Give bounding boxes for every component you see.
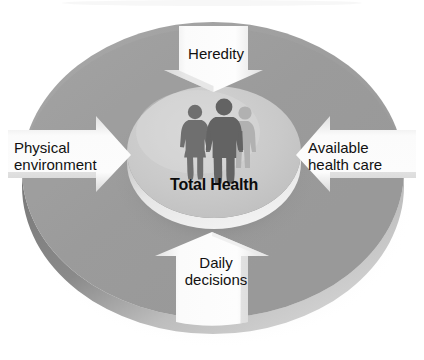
scan-artifact <box>62 0 362 6</box>
label-daily-line1: Daily <box>199 254 232 271</box>
label-daily-decisions: Dailydecisions <box>163 254 269 288</box>
label-physical-line2: environment <box>14 156 97 173</box>
label-total-health: Total Health <box>132 176 296 194</box>
label-physical-line1: Physical <box>14 139 70 156</box>
label-available-line1: Available <box>308 139 369 156</box>
label-daily-line2: decisions <box>185 271 248 288</box>
label-physical-environment: Physicalenvironment <box>14 139 126 173</box>
diagram-canvas: Heredity Physicalenvironment Availablehe… <box>0 0 424 360</box>
label-available-line2: health care <box>308 156 382 173</box>
label-available-health-care: Availablehealth care <box>308 139 424 173</box>
label-heredity: Heredity <box>168 45 264 62</box>
